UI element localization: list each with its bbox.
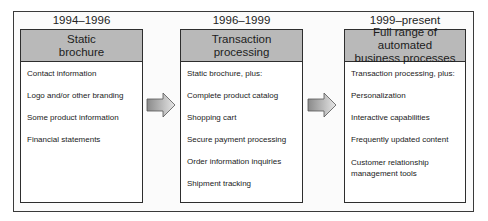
list-item: Static brochure, plus:	[187, 69, 302, 79]
right-arrow-icon	[307, 92, 337, 118]
list-item: Financial statements	[27, 135, 142, 145]
list-item: Transaction processing, plus:	[351, 69, 465, 79]
period-label: 1996–1999	[180, 14, 303, 26]
right-arrow-icon	[146, 92, 176, 118]
list-item: Personalization	[351, 91, 465, 101]
list-item: Logo and/or other branding	[27, 91, 142, 101]
list-item: Secure payment processing	[187, 135, 302, 145]
stage-title-line1: Static	[59, 33, 104, 46]
list-item-line: management tools	[351, 168, 465, 179]
list-item: Some product information	[27, 113, 142, 123]
list-item: Shipment tracking	[187, 179, 302, 189]
stage-box: Transaction processing Static brochure, …	[180, 29, 303, 203]
stage-header: Static brochure	[21, 30, 142, 62]
list-item: Order information inquiries	[187, 157, 302, 167]
stage-title-line2: processing	[212, 46, 272, 59]
list-item: Shopping cart	[187, 113, 302, 123]
stage-title-line1: Transaction	[212, 33, 272, 46]
stage-title-line2: business processes	[345, 52, 465, 65]
stage-full-range-automated: 1999–present Full range of automated bus…	[344, 0, 466, 221]
stage-box: Full range of automated business process…	[344, 29, 466, 203]
stage-header: Full range of automated business process…	[345, 30, 465, 62]
stage-transaction-processing: 1996–1999 Transaction processing Static …	[180, 0, 303, 221]
feature-list: Transaction processing, plus: Personaliz…	[345, 62, 465, 179]
list-item-line: Customer relationship	[351, 157, 465, 168]
list-item: Customer relationship management tools	[351, 157, 465, 179]
stage-title-line1: Full range of automated	[345, 26, 465, 52]
stage-box: Static brochure Contact information Logo…	[20, 29, 143, 203]
list-item: Frequently updated content	[351, 135, 465, 145]
feature-list: Static brochure, plus: Complete product …	[181, 62, 302, 189]
list-item: Complete product catalog	[187, 91, 302, 101]
feature-list: Contact information Logo and/or other br…	[21, 62, 142, 145]
period-label: 1994–1996	[20, 14, 143, 26]
list-item: Interactive capabilities	[351, 113, 465, 123]
stage-static-brochure: 1994–1996 Static brochure Contact inform…	[20, 0, 143, 221]
stage-title-line2: brochure	[59, 46, 104, 59]
list-item: Contact information	[27, 69, 142, 79]
stage-header: Transaction processing	[181, 30, 302, 62]
period-label: 1999–present	[344, 14, 466, 26]
